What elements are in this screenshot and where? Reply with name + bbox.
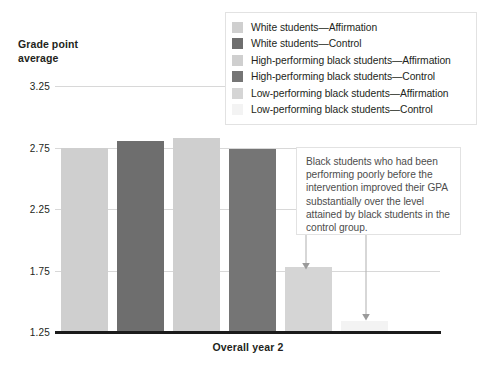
y-axis-ticks: 3.252.752.251.751.25 — [0, 86, 50, 332]
chart-legend: White students—AffirmationWhite students… — [225, 12, 477, 125]
bar — [285, 267, 332, 332]
annotation-callout: Black students who had been performing p… — [296, 147, 461, 235]
bar — [173, 138, 220, 332]
legend-item-label: Low-performing black students—Affirmatio… — [251, 88, 449, 99]
legend-item-label: Low-performing black students—Control — [251, 104, 433, 115]
gpa-bar-chart: Grade point average 3.252.752.251.751.25… — [0, 0, 484, 370]
legend-item[interactable]: White students—Control — [232, 36, 470, 53]
x-axis-line — [55, 331, 441, 334]
y-tick-label: 2.75 — [8, 142, 50, 153]
legend-swatch-icon — [232, 22, 243, 33]
legend-item-label: White students—Control — [251, 38, 362, 49]
y-tick-label: 1.25 — [8, 327, 50, 338]
y-axis-title: Grade point average — [18, 38, 128, 65]
bar — [117, 141, 164, 332]
bar — [229, 149, 276, 332]
legend-swatch-icon — [232, 104, 243, 115]
legend-item[interactable]: White students—Affirmation — [232, 19, 470, 36]
legend-swatch-icon — [232, 88, 243, 99]
legend-swatch-icon — [232, 71, 243, 82]
x-axis-label: Overall year 2 — [55, 341, 441, 353]
legend-swatch-icon — [232, 38, 243, 49]
legend-item-label: High-performing black students—Affirmati… — [251, 55, 451, 66]
legend-item-label: White students—Affirmation — [251, 22, 377, 33]
y-tick-label: 2.25 — [8, 204, 50, 215]
legend-item[interactable]: Low-performing black students—Control — [232, 102, 470, 119]
annotation-text: Black students who had been performing p… — [306, 155, 451, 234]
y-axis-title-line1: Grade point — [18, 38, 128, 52]
legend-item[interactable]: High-performing black students—Affirmati… — [232, 52, 470, 69]
legend-swatch-icon — [232, 55, 243, 66]
y-tick-label: 3.25 — [8, 81, 50, 92]
legend-item-label: High-performing black students—Control — [251, 71, 435, 82]
bar — [61, 148, 108, 333]
y-tick-label: 1.75 — [8, 265, 50, 276]
legend-item[interactable]: Low-performing black students—Affirmatio… — [232, 85, 470, 102]
y-axis-title-line2: average — [18, 52, 128, 66]
legend-item[interactable]: High-performing black students—Control — [232, 69, 470, 86]
